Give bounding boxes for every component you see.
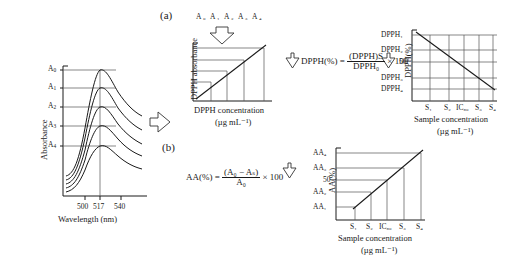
panel-b-result-xtick-s3: S₃ [399, 223, 406, 231]
panel-b-result-ytick-4: AA₄ [313, 149, 326, 157]
panel-b-result-ytick-1: AA₁ [313, 203, 326, 211]
panel-b-result-xtick-s4: S₄ [416, 223, 423, 231]
arrow-down-to-result-b [283, 163, 296, 178]
panel-b-result-xtick-s1: S₁ [350, 223, 357, 231]
panel-b-result-ytick-3: AA₃ [313, 164, 326, 172]
dpph-assay-workflow-diagram: A0 A1 A2 A3 A4 500 517 540 Wavelength (n… [0, 0, 519, 262]
panel-b-result-ytick-50: 50 [323, 176, 331, 184]
panel-b-graphic [0, 0, 519, 262]
panel-b-result-xtick-ic50: IC₅₀ [379, 223, 392, 231]
panel-b-result-xaxis-title-line1: Sample concentration [338, 234, 412, 243]
panel-b-result-ytick-2: AA₂ [313, 188, 326, 196]
panel-b-result-xtick-s2: S₂ [366, 223, 373, 231]
panel-b-result-xaxis-title-line2: (µg mL⁻¹) [361, 246, 397, 255]
